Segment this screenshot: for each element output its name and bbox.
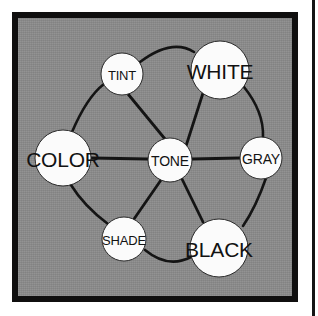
edge-tone-shade xyxy=(134,180,161,219)
node-tint[interactable]: TINT xyxy=(101,53,143,95)
node-label-color: COLOR xyxy=(26,148,100,171)
edge-shade-color xyxy=(71,185,108,224)
node-gray[interactable]: GRAY xyxy=(240,137,282,179)
node-white[interactable]: WHITE xyxy=(187,41,254,99)
node-label-white: WHITE xyxy=(187,60,254,83)
edge-color-tint xyxy=(72,84,104,132)
node-label-shade: SHADE xyxy=(102,233,146,248)
color-terminology-diagram: TINT WHITE COLOR TONE GRAY SHADE BLACK xyxy=(0,0,318,316)
edge-gray-black xyxy=(243,178,266,226)
node-label-tint: TINT xyxy=(108,68,136,83)
node-color[interactable]: COLOR xyxy=(26,130,100,186)
node-label-tone: TONE xyxy=(151,153,189,169)
node-black[interactable]: BLACK xyxy=(185,219,253,277)
edge-tone-gray xyxy=(192,158,240,159)
node-shade[interactable]: SHADE xyxy=(102,217,146,261)
node-label-gray: GRAY xyxy=(242,151,281,167)
edge-tone-white xyxy=(186,93,203,146)
figure-page: TINT WHITE COLOR TONE GRAY SHADE BLACK xyxy=(0,0,318,316)
node-tone[interactable]: TONE xyxy=(148,138,192,182)
edge-tone-tint xyxy=(128,94,165,139)
edge-tone-black xyxy=(182,179,203,222)
edge-white-gray xyxy=(244,87,263,137)
node-label-black: BLACK xyxy=(185,238,253,261)
